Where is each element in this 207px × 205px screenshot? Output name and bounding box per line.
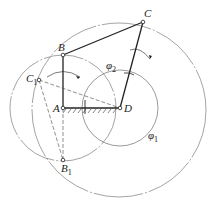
label-D: D: [124, 103, 132, 114]
label-C: C: [144, 8, 151, 19]
diagram-geometry: [0, 0, 207, 205]
joint-B: [61, 53, 65, 57]
label-B: B: [58, 42, 65, 53]
linkage-diagram: C B C1 A D B1 φ2 φ1: [0, 0, 207, 205]
label-C1: C1: [26, 73, 37, 87]
label-phi2: φ2: [106, 60, 116, 74]
joint-C1: [37, 78, 41, 82]
label-phi1: φ1: [148, 130, 158, 144]
label-B1: B1: [61, 163, 72, 177]
dashed-C1-D: [39, 80, 120, 108]
rocker-CD: [120, 22, 143, 108]
coupler-BC: [63, 22, 143, 55]
dashed-C1-B1: [39, 80, 63, 160]
label-A: A: [53, 103, 60, 114]
ground-hatch: [63, 109, 116, 113]
joint-A: [61, 106, 65, 110]
joints: [37, 20, 145, 162]
joint-D: [118, 106, 122, 110]
joint-C: [141, 20, 145, 24]
